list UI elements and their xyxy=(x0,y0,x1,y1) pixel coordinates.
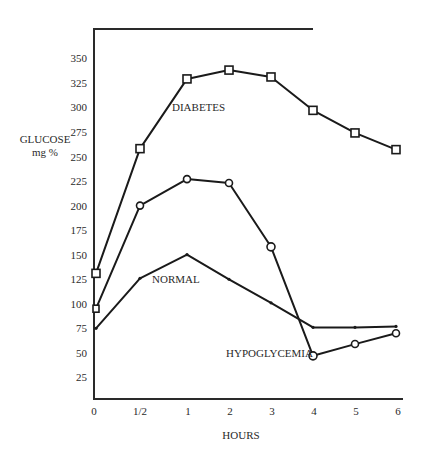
square-marker-icon xyxy=(351,129,359,137)
y-tick-label: 200 xyxy=(71,200,88,212)
y-tick-label: 75 xyxy=(76,322,88,334)
circle-marker-icon xyxy=(393,330,400,337)
y-tick-label: 300 xyxy=(71,101,88,113)
square-marker-icon xyxy=(309,106,317,114)
dot-marker-icon xyxy=(311,326,314,329)
x-axis-ticks: 01/2123456 xyxy=(91,405,401,417)
x-tick-label: 1 xyxy=(185,405,191,417)
series-hypoglycemia xyxy=(93,176,400,360)
square-marker-icon xyxy=(267,73,275,81)
square-marker-icon xyxy=(225,66,233,74)
x-tick-label: 6 xyxy=(395,405,401,417)
x-tick-label: 4 xyxy=(311,405,317,417)
y-tick-label: 125 xyxy=(71,273,88,285)
y-tick-label: 150 xyxy=(71,249,88,261)
series-label-normal: NORMAL xyxy=(152,273,200,285)
y-axis-title-line1: GLUCOSE xyxy=(20,133,71,145)
series-line-diabetes xyxy=(96,70,396,273)
x-tick-label: 2 xyxy=(227,405,233,417)
y-tick-label: 225 xyxy=(71,175,88,187)
square-marker-icon xyxy=(93,305,99,312)
series-group xyxy=(92,66,400,360)
y-tick-label: 50 xyxy=(76,347,88,359)
square-marker-icon xyxy=(136,145,144,153)
y-tick-label: 325 xyxy=(71,77,88,89)
square-marker-icon xyxy=(183,75,191,83)
series-label-diabetes: DIABETES xyxy=(172,101,225,113)
x-tick-label: 1/2 xyxy=(133,405,147,417)
dot-marker-icon xyxy=(185,253,188,256)
series-line-normal xyxy=(96,255,396,329)
circle-marker-icon xyxy=(184,176,191,183)
y-tick-label: 175 xyxy=(71,224,88,236)
x-tick-label: 3 xyxy=(269,405,275,417)
y-tick-label: 100 xyxy=(71,298,88,310)
x-axis-title: HOURS xyxy=(222,429,259,441)
circle-marker-icon xyxy=(226,180,233,187)
series-label-hypoglycemia: HYPOGLYCEMIA xyxy=(226,347,313,359)
series-normal xyxy=(94,253,397,330)
dot-marker-icon xyxy=(269,301,272,304)
dot-marker-icon xyxy=(94,327,97,330)
y-tick-label: 250 xyxy=(71,151,88,163)
dot-marker-icon xyxy=(394,325,397,328)
circle-marker-icon xyxy=(352,341,359,348)
circle-marker-icon xyxy=(137,202,144,209)
square-marker-icon xyxy=(92,269,100,277)
y-tick-label: 350 xyxy=(71,52,88,64)
circle-marker-icon xyxy=(267,243,275,251)
y-axis-title-line2: mg % xyxy=(32,146,58,158)
y-tick-label: 275 xyxy=(71,126,88,138)
y-axis-ticks: 255075100125150175200225250275300325350 xyxy=(71,52,88,383)
glucose-tolerance-chart: 255075100125150175200225250275300325350 … xyxy=(0,0,425,460)
x-tick-label: 0 xyxy=(91,405,97,417)
series-diabetes xyxy=(92,66,400,277)
x-tick-label: 5 xyxy=(353,405,359,417)
dot-marker-icon xyxy=(227,278,230,281)
dot-marker-icon xyxy=(353,326,356,329)
y-tick-label: 25 xyxy=(76,371,88,383)
dot-marker-icon xyxy=(138,277,141,280)
square-marker-icon xyxy=(392,146,400,154)
